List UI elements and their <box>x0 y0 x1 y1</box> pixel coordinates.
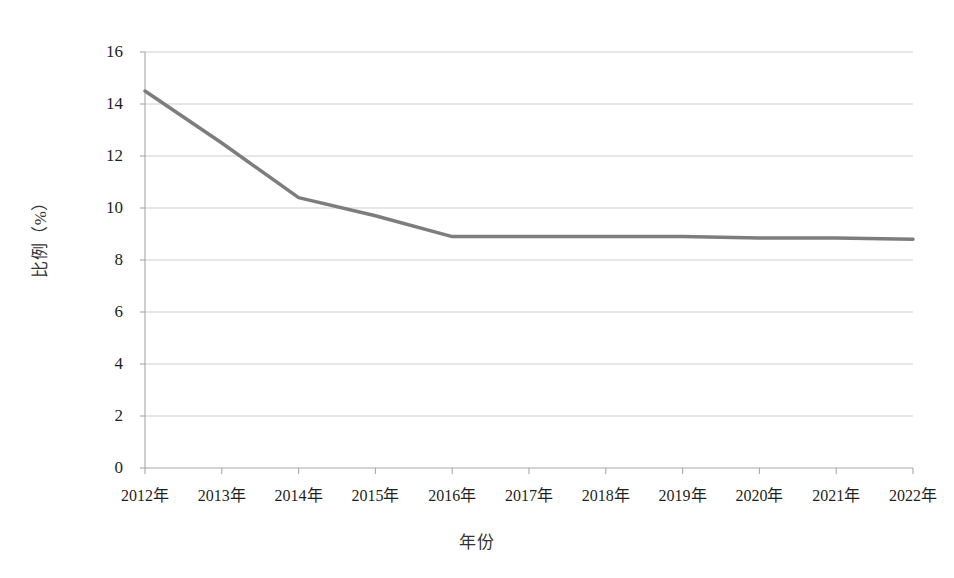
line-chart-figure: 比例（%） 0246810121416 2012年2013年2014年2015年… <box>0 0 954 578</box>
x-tick-label-2015: 2015年 <box>351 482 399 506</box>
x-tick-label-2013: 2013年 <box>198 482 246 506</box>
x-axis-title: 年份 <box>0 528 954 553</box>
x-tick-label-2021: 2021年 <box>812 482 860 506</box>
x-tick-label-2017: 2017年 <box>505 482 553 506</box>
x-tick-label-2018: 2018年 <box>582 482 630 506</box>
x-tick-label-2020: 2020年 <box>735 482 783 506</box>
x-tick-label-2016: 2016年 <box>428 482 476 506</box>
x-tick-label-2019: 2019年 <box>659 482 707 506</box>
x-axis-tick-labels: 2012年2013年2014年2015年2016年2017年2018年2019年… <box>0 0 954 578</box>
x-tick-label-2014: 2014年 <box>275 482 323 506</box>
x-tick-label-2022: 2022年 <box>889 482 937 506</box>
x-tick-label-2012: 2012年 <box>121 482 169 506</box>
